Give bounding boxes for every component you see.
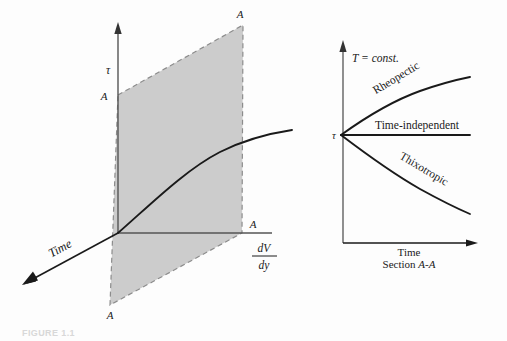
section-a-a-name: A-A [417, 258, 435, 270]
corner-label-a-mid-right: A [249, 218, 257, 230]
section-plane-shaded-area [110, 25, 243, 305]
right-time-axis-label: Time [398, 246, 421, 258]
thixotropic-label: Thixotropic [397, 149, 450, 188]
left-time-axis-label: Time [46, 236, 74, 260]
left-time-axis-line [31, 233, 118, 280]
right-panel-group: τ T = const. Rheopectic Time-independent… [332, 40, 478, 270]
rheology-figure-svg: τ A A A A Time dV dy [0, 0, 507, 341]
corner-label-a-bottom-left: A [106, 309, 114, 321]
section-a-a-label: Section A-A [383, 258, 436, 270]
left-tau-axis-arrowhead [114, 22, 121, 34]
figure-caption-strip: FIGURE 1.1 [0, 330, 507, 341]
corner-label-a-top-left: A [100, 90, 108, 102]
right-time-axis-arrowhead [466, 239, 478, 246]
left-panel-group: τ A A A A Time dV dy [22, 8, 292, 321]
rheopectic-label: Rheopectic [371, 59, 422, 97]
corner-label-a-top-right: A [236, 8, 244, 20]
section-a-a-prefix: Section [383, 258, 419, 270]
thixotropic-curve [341, 135, 470, 214]
left-gradient-axis-label-denominator: dy [259, 259, 271, 272]
left-tau-axis-label: τ [106, 64, 111, 76]
right-tau-axis-arrowhead [339, 40, 346, 52]
time-independent-label: Time-independent [375, 119, 460, 132]
temperature-constant-annotation: T = const. [352, 52, 399, 64]
temperature-constant-text: T = const. [352, 52, 399, 64]
left-gradient-axis-label-numerator: dV [258, 242, 273, 254]
figure-container: τ A A A A Time dV dy [0, 0, 507, 341]
figure-caption-text: FIGURE 1.1 [22, 330, 75, 338]
right-tau-axis-label: τ [332, 130, 337, 141]
